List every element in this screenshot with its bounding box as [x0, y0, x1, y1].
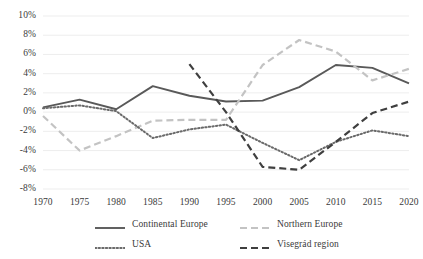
x-tick-label: 2015 — [352, 197, 392, 207]
chart-legend: Continental Europe Northern Europe USA V… — [95, 216, 395, 256]
legend-label-visegrad-region: Visegrád region — [277, 239, 339, 249]
series-line-continental-europe — [43, 65, 409, 109]
y-tick-label: -8% — [0, 183, 36, 193]
gridlines-group — [43, 16, 409, 189]
legend-swatch-usa — [95, 239, 125, 249]
x-tick-label: 1975 — [60, 197, 100, 207]
y-tick-label: 4% — [0, 68, 36, 78]
legend-swatch-northern-europe — [240, 219, 270, 229]
legend-item-usa: USA — [95, 236, 151, 252]
legend-item-visegrad-region: Visegrád region — [240, 236, 339, 252]
y-tick-label: -2% — [0, 125, 36, 135]
x-tick-label: 2000 — [243, 197, 283, 207]
y-tick-label: 10% — [0, 10, 36, 20]
x-tick-label: 1980 — [96, 197, 136, 207]
legend-label-usa: USA — [132, 239, 151, 249]
y-tick-label: -4% — [0, 145, 36, 155]
legend-label-northern-europe: Northern Europe — [277, 219, 343, 229]
x-tick-label: 2005 — [279, 197, 319, 207]
x-tick-label: 1995 — [206, 197, 246, 207]
x-tick-label: 1985 — [133, 197, 173, 207]
legend-label-continental-europe: Continental Europe — [132, 219, 208, 229]
x-tick-label: 1990 — [169, 197, 209, 207]
y-tick-label: -6% — [0, 164, 36, 174]
y-tick-label: 2% — [0, 87, 36, 97]
legend-item-continental-europe: Continental Europe — [95, 216, 208, 232]
x-tick-label: 2020 — [389, 197, 423, 207]
y-tick-label: 8% — [0, 29, 36, 39]
y-tick-label: 6% — [0, 48, 36, 58]
y-tick-label: 0% — [0, 106, 36, 116]
x-tick-label: 2010 — [316, 197, 356, 207]
series-line-northern-europe — [43, 40, 409, 151]
legend-item-northern-europe: Northern Europe — [240, 216, 343, 232]
legend-swatch-visegrad-region — [240, 239, 270, 249]
legend-swatch-continental-europe — [95, 219, 125, 229]
x-tick-label: 1970 — [23, 197, 63, 207]
